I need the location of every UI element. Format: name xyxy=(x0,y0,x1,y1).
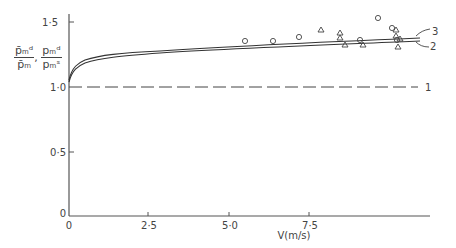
curve-2 xyxy=(69,41,420,82)
x-tick-2-5: 2·5 xyxy=(141,220,157,231)
x-tick-0: 0 xyxy=(66,220,72,231)
curve-3-label: 3 xyxy=(432,26,438,37)
y-tick-0-5: 0·5 xyxy=(50,147,66,158)
chart: 1·5 1·0 0·5 0 0 2·5 5·0 7·5 V(m/s) 1 3 2 xyxy=(0,0,456,248)
y-axis-label: p̄ₘᵈp̄ₘ, pₘᵈpₘˢ xyxy=(14,44,62,71)
curve-1-label: 1 xyxy=(425,82,431,93)
x-tick-5-0: 5·0 xyxy=(222,220,238,231)
curve-3 xyxy=(69,38,420,80)
y-tick-0: 0 xyxy=(60,208,66,219)
curve-2-label: 2 xyxy=(430,41,436,52)
x-axis-label: V(m/s) xyxy=(278,230,311,241)
y-tick-1-5: 1·5 xyxy=(42,17,58,28)
y-tick-1-0: 1·0 xyxy=(50,82,66,93)
